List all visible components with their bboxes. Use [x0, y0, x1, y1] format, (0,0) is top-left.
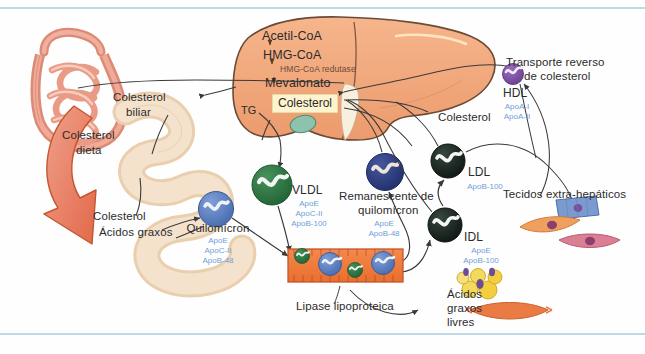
quilomicron-apo-3: ApoB-48	[184, 256, 252, 265]
reverse-transport-line1: Transporte reverso	[506, 56, 605, 69]
lumen-label-fatty-acids: Ácidos graxos	[99, 226, 173, 239]
vldl-apo-2: ApoC-II	[280, 209, 338, 218]
idl-apo-2: ApoB-100	[452, 256, 510, 265]
ffa-label-line3: livres	[447, 316, 474, 329]
vldl-apo-3: ApoB-100	[280, 219, 338, 228]
liver-tg-label: TG	[241, 104, 256, 116]
vldl-label: VLDL	[292, 184, 322, 197]
remanescente-label-line2: quilomícron	[358, 204, 419, 217]
reverse-transport-curve	[520, 84, 549, 196]
bile-label-line1: Colesterol	[113, 91, 166, 104]
liver-step-mevalonato: Mevalonato	[265, 76, 331, 90]
ldl-particle	[431, 144, 465, 178]
idl-to-ldl-arrow	[438, 180, 444, 206]
remanescente-apo-2: ApoB-48	[348, 229, 420, 238]
vldl-apo-1: ApoE	[280, 199, 338, 208]
capillary-segment	[288, 249, 403, 283]
hdl-apo-1: ApoA-I	[492, 102, 542, 111]
cholesterol-right-label: Colesterol	[438, 111, 491, 124]
reverse-transport-line2: de colesterol	[524, 70, 591, 83]
idl-particle	[428, 208, 462, 242]
idl-label: IDL	[464, 231, 483, 244]
ffa-label-line2: graxos	[447, 302, 482, 315]
tissue-cells	[520, 196, 620, 248]
remanescente-apo-1: ApoE	[348, 219, 420, 228]
liver-enzyme-hmg-coa-redutase: HMG-CoA redutase	[280, 65, 356, 75]
quilomicron-label: Quilomícron	[184, 222, 252, 235]
liver-cholesterol-box: Colesterol	[272, 94, 338, 113]
lipase-label: Lipase lipoproteica	[296, 300, 394, 313]
hdl-apo-2: ApoA-II	[492, 112, 542, 121]
quilomicron-apo-1: ApoE	[184, 236, 252, 245]
figure-canvas: Acetil-CoA HMG-CoA HMG-CoA redutase Meva…	[0, 0, 645, 354]
ldl-label: LDL	[468, 166, 490, 179]
quilomicron-apo-2: ApoC-II	[184, 246, 252, 255]
idl-apo-1: ApoE	[455, 246, 507, 255]
liver-step-acetil-coa: Acetil-CoA	[262, 29, 322, 43]
diet-label-line1: Colesterol	[62, 129, 115, 142]
lumen-label-cholesterol: Colesterol	[93, 210, 146, 223]
diet-label-line2: dieta	[76, 144, 101, 157]
tissues-label: Tecidos extra-hepáticos	[503, 188, 626, 201]
remanescente-label-line1: Remanescente de	[339, 190, 434, 203]
ffa-label-line1: Ácidos	[447, 288, 482, 301]
remanescente-particle	[367, 154, 404, 191]
liver-step-hmg-coa: HMG-CoA	[263, 48, 321, 62]
bile-label-line2: biliar	[126, 106, 151, 119]
hdl-label: HDL	[503, 87, 527, 100]
